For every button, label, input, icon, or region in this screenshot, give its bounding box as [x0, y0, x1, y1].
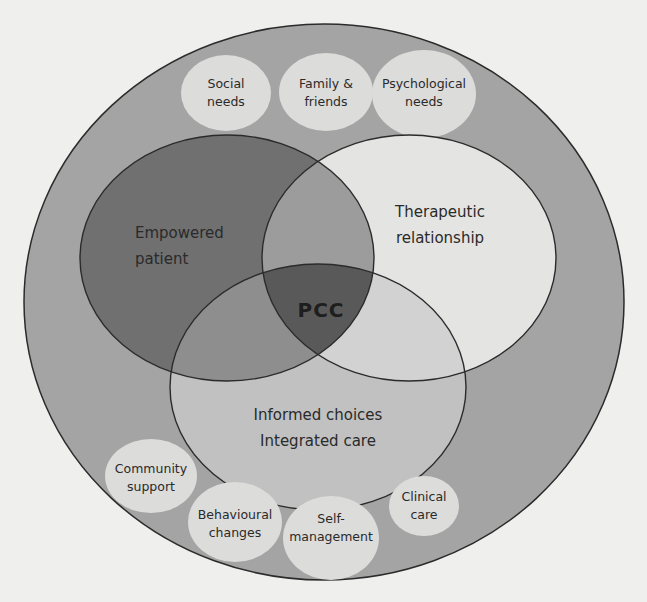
label-psychological-1: Psychological — [382, 76, 466, 91]
satellite-social — [181, 55, 271, 131]
label-informed-1: Informed choices — [254, 406, 383, 424]
label-therapeutic-1: Therapeutic — [394, 203, 485, 221]
label-clinical-2: care — [410, 507, 437, 522]
label-clinical-1: Clinical — [401, 489, 446, 504]
label-empowered-1: Empowered — [135, 224, 224, 242]
label-behavioural-2: changes — [209, 525, 262, 540]
satellite-clinical — [389, 476, 459, 536]
pcc-diagram: Empowered patient Therapeutic relationsh… — [0, 0, 647, 602]
label-psychological-2: needs — [405, 94, 443, 109]
label-community-2: support — [127, 479, 175, 494]
label-behavioural-1: Behavioural — [198, 507, 273, 522]
label-family-2: friends — [304, 94, 347, 109]
label-pcc: PCC — [297, 298, 344, 322]
label-family-1: Family & — [299, 76, 353, 91]
label-therapeutic-2: relationship — [396, 229, 484, 247]
satellite-community — [105, 439, 197, 513]
label-informed-2: Integrated care — [260, 432, 376, 450]
satellite-behavioural — [188, 482, 282, 562]
label-community-1: Community — [115, 461, 188, 476]
label-self-1: Self- — [317, 511, 344, 526]
label-empowered-2: patient — [135, 250, 188, 268]
label-social-2: needs — [207, 94, 245, 109]
label-self-2: management — [289, 529, 373, 544]
satellite-family — [279, 53, 373, 131]
label-social-1: Social — [207, 76, 244, 91]
